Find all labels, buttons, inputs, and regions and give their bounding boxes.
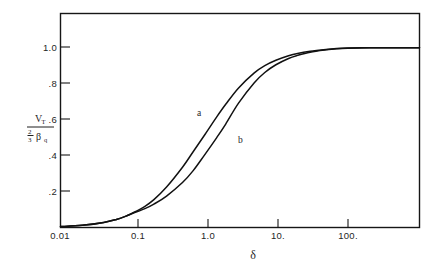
x-tick-label-100: 100. [338,230,358,241]
y-tick-label-1.0: 1.0 [43,42,57,53]
x-tick-label-1.0: 1.0 [201,230,215,241]
x-tick-label-0.1: 0.1 [131,230,145,241]
y-tick-label-0.6: .6 [48,114,57,125]
figure-container: 1.0 .8 .6 .4 .2 0.01 0.1 1.0 10. 100. δ … [0,0,434,271]
y-tick-label-0.2: .2 [48,186,57,197]
x-tick-label-10: 10. [271,230,285,241]
x-tick-label-0.01: 0.01 [50,230,70,241]
y-axis-title-denominator-symbol: β [36,131,41,142]
chart-canvas: 1.0 .8 .6 .4 .2 0.01 0.1 1.0 10. 100. δ … [0,0,434,271]
x-axis-title: δ [250,248,256,262]
y-axis-title-denominator-frac-numerator: 2 [28,128,32,136]
y-axis-title-numerator-subscript: T [42,118,46,125]
y-tick-label-0.8: .8 [48,78,57,89]
curve-label-a: a [197,108,202,118]
y-axis-title-denominator-frac-denominator: 3 [28,136,32,144]
plot-frame [61,14,420,228]
y-axis-ticks [61,47,71,191]
x-axis-tick-labels: 0.01 0.1 1.0 10. 100. [50,230,358,241]
y-axis-title-denominator-subscript: q [44,136,48,143]
x-axis-ticks [138,219,348,228]
curve-label-b: b [238,135,243,145]
y-tick-label-0.4: .4 [48,150,57,161]
